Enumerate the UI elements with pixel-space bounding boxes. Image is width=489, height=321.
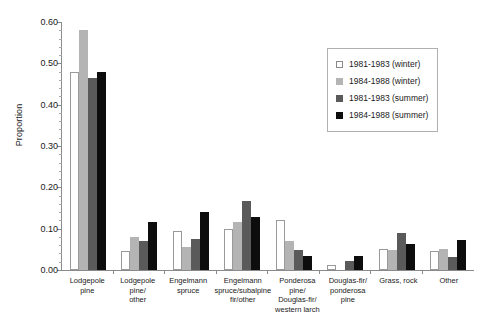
bar xyxy=(191,239,200,270)
x-tick xyxy=(113,270,114,274)
bar-group xyxy=(114,22,166,270)
bar xyxy=(224,229,233,270)
x-tick xyxy=(370,270,371,274)
y-tick-label: 0.00 xyxy=(40,266,58,275)
bar xyxy=(97,72,106,270)
bar xyxy=(276,220,285,270)
bar xyxy=(173,231,182,270)
bar xyxy=(233,222,242,270)
x-axis-category-label: Lodgepole pine/ other xyxy=(112,276,162,314)
y-axis-label: Proportion xyxy=(14,70,24,180)
y-tick-label: 0.60 xyxy=(40,18,58,27)
bar xyxy=(303,256,312,270)
bar xyxy=(139,241,148,270)
bar xyxy=(345,261,354,270)
bar-group xyxy=(217,22,269,270)
legend-swatch-icon xyxy=(336,95,343,102)
bar-group xyxy=(268,22,320,270)
bar xyxy=(388,250,397,270)
bar xyxy=(294,250,303,270)
chart-legend: 1981-1983 (winter)1984-1988 (winter)1981… xyxy=(327,48,438,132)
x-tick xyxy=(216,270,217,274)
bar xyxy=(130,237,139,270)
y-tick-label: 0.50 xyxy=(40,59,58,68)
bar xyxy=(70,72,79,270)
bar-group xyxy=(165,22,217,270)
x-axis-category-label: Lodgepole pine xyxy=(62,276,112,314)
bar xyxy=(448,257,457,270)
bar xyxy=(457,240,466,270)
bar xyxy=(285,241,294,270)
x-axis-category-label: Engelmann spruce xyxy=(163,276,213,314)
x-axis-category-label: Ponderosa pine/ Douglas-fir/ western lar… xyxy=(272,276,322,314)
x-tick xyxy=(422,270,423,274)
bar xyxy=(327,265,336,270)
bar xyxy=(121,251,130,270)
legend-swatch-icon xyxy=(336,78,343,85)
bar xyxy=(430,251,439,270)
y-tick-label: 0.30 xyxy=(40,142,58,151)
x-axis-category-label: Grass, rock xyxy=(373,276,423,314)
bar-group xyxy=(62,22,114,270)
legend-label: 1981-1983 (winter) xyxy=(349,60,420,69)
legend-swatch-icon xyxy=(336,61,343,68)
x-tick xyxy=(267,270,268,274)
bar xyxy=(251,217,260,270)
y-tick-label: 0.10 xyxy=(40,224,58,233)
x-axis-category-label: Other xyxy=(424,276,474,314)
legend-label: 1981-1983 (summer) xyxy=(349,94,428,103)
bar xyxy=(354,256,363,270)
bar xyxy=(182,247,191,270)
bar-chart: Proportion 0.600.500.400.300.200.100.00 … xyxy=(0,0,489,321)
y-tick-label: 0.20 xyxy=(40,183,58,192)
legend-item: 1981-1983 (summer) xyxy=(336,90,428,107)
bar xyxy=(439,249,448,270)
legend-item: 1981-1983 (winter) xyxy=(336,56,428,73)
x-axis-category-label: Douglas-fir/ ponderosa pine xyxy=(323,276,373,314)
legend-label: 1984-1988 (winter) xyxy=(349,77,420,86)
bar xyxy=(200,212,209,270)
x-axis-category-labels: Lodgepole pineLodgepole pine/ otherEngel… xyxy=(62,276,474,314)
x-axis-category-label: Engelmann spruce/subalpine fir/other xyxy=(213,276,272,314)
legend-swatch-icon xyxy=(336,112,343,119)
y-tick-label: 0.40 xyxy=(40,100,58,109)
bar xyxy=(242,201,251,270)
legend-item: 1984-1988 (winter) xyxy=(336,73,428,90)
bar xyxy=(79,30,88,270)
bar xyxy=(406,244,415,270)
bar xyxy=(379,249,388,270)
x-tick xyxy=(164,270,165,274)
x-tick xyxy=(319,270,320,274)
legend-label: 1984-1988 (summer) xyxy=(349,111,428,120)
bar xyxy=(88,78,97,270)
bar xyxy=(148,222,157,270)
bar xyxy=(397,233,406,270)
legend-item: 1984-1988 (summer) xyxy=(336,107,428,124)
